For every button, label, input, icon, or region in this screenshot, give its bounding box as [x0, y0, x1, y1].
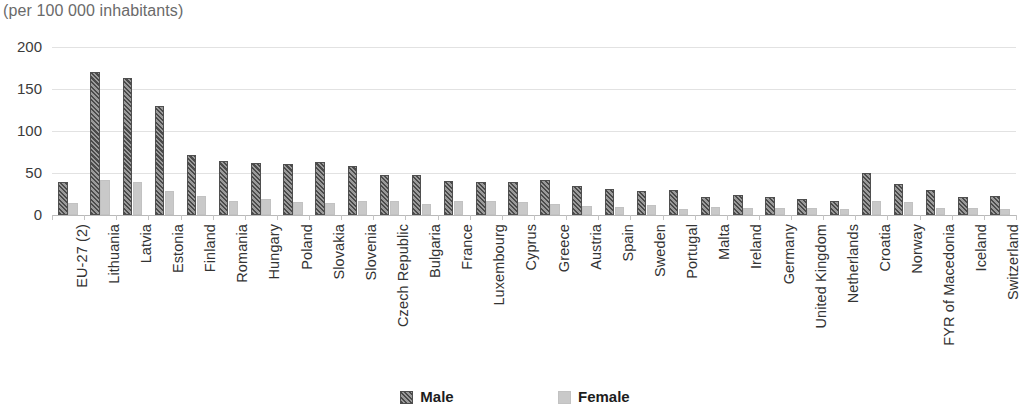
bar-group	[309, 47, 341, 215]
bar-female	[904, 202, 914, 215]
bar-female	[936, 208, 946, 215]
x-axis-tick	[277, 215, 278, 220]
bar-group	[470, 47, 502, 215]
bar-group	[695, 47, 727, 215]
bar-male	[605, 189, 615, 215]
bar-group	[245, 47, 277, 215]
bar-female	[422, 204, 432, 215]
bar-group	[663, 47, 695, 215]
x-axis-tick	[213, 215, 214, 220]
x-axis-label-text: Greece	[556, 224, 572, 272]
bar-female	[133, 182, 143, 215]
x-axis-tick	[341, 215, 342, 220]
bar-group	[148, 47, 180, 215]
x-axis-label: Sweden	[652, 224, 668, 277]
bar-male	[412, 175, 422, 215]
bar-male	[123, 78, 133, 215]
bar-male	[476, 182, 486, 215]
bar-female	[840, 209, 850, 215]
x-axis-label: Iceland	[973, 224, 989, 271]
x-axis-tick	[405, 215, 406, 220]
x-axis-tick	[695, 215, 696, 220]
x-axis-label-text: Switzerland	[1005, 224, 1021, 300]
x-axis-label-text: FYR of Macedonia	[941, 224, 957, 346]
bar-female	[582, 206, 592, 215]
bar-group	[373, 47, 405, 215]
x-axis-label: Netherlands	[845, 224, 861, 303]
bar-group	[791, 47, 823, 215]
x-axis-label: Switzerland	[1005, 224, 1021, 300]
bar-group	[341, 47, 373, 215]
x-axis-tick	[791, 215, 792, 220]
x-axis-tick	[438, 215, 439, 220]
bar-group	[823, 47, 855, 215]
x-axis-tick	[984, 215, 985, 220]
x-axis-tick	[1016, 215, 1017, 220]
x-axis-label-text: Finland	[202, 224, 218, 272]
bar-female	[358, 201, 368, 215]
chart-legend: Male Female	[0, 386, 1030, 405]
bar-male	[508, 182, 518, 215]
x-axis-label-text: Netherlands	[845, 224, 861, 303]
bar-male	[187, 155, 197, 215]
bar-female	[390, 201, 400, 215]
x-axis-label-text: France	[459, 224, 475, 270]
bar-male	[380, 175, 390, 215]
x-axis-label-text: Romania	[234, 224, 250, 283]
x-axis-label: Norway	[909, 224, 925, 274]
x-axis-label-text: Portugal	[684, 224, 700, 279]
bar-group	[84, 47, 116, 215]
legend-swatch-male-icon	[400, 391, 413, 404]
y-axis-tick-label: 100	[0, 122, 42, 139]
x-axis-label: Portugal	[684, 224, 700, 279]
y-axis-tick-label: 0	[0, 206, 42, 223]
bar-group	[405, 47, 437, 215]
bar-female	[743, 208, 753, 215]
x-axis-label-text: Lithuania	[106, 224, 122, 284]
x-axis-label: Latvia	[138, 224, 154, 263]
bar-group	[534, 47, 566, 215]
x-axis-tick	[116, 215, 117, 220]
x-axis-label-text: Cyprus	[523, 224, 539, 271]
bars-container	[52, 47, 1016, 215]
bar-female	[968, 208, 978, 215]
bar-group	[727, 47, 759, 215]
x-axis-label-text: Poland	[299, 224, 315, 270]
x-axis-tick	[920, 215, 921, 220]
x-axis-label-text: Slovenia	[363, 224, 379, 280]
x-axis-tick	[373, 215, 374, 220]
bar-group	[855, 47, 887, 215]
bar-male	[348, 166, 358, 215]
bar-female	[518, 202, 528, 215]
x-axis-label: United Kingdom	[813, 224, 829, 329]
x-axis-tick	[759, 215, 760, 220]
x-axis-tick	[309, 215, 310, 220]
x-axis-label-text: Iceland	[973, 224, 989, 271]
x-axis-label-text: Latvia	[138, 224, 154, 263]
bar-female	[711, 207, 721, 215]
x-axis-tick	[84, 215, 85, 220]
x-axis-label: Lithuania	[106, 224, 122, 284]
bar-male	[283, 164, 293, 215]
bar-female	[197, 196, 207, 215]
x-axis-tick	[470, 215, 471, 220]
x-axis-tick	[823, 215, 824, 220]
x-axis-label: Malta	[716, 224, 732, 260]
bar-male	[637, 191, 647, 215]
y-axis-tick-label: 200	[0, 38, 42, 55]
bar-group	[952, 47, 984, 215]
bar-female	[872, 201, 882, 215]
x-axis-label-text: Estonia	[170, 224, 186, 273]
bar-male	[701, 197, 711, 215]
bar-female	[229, 201, 239, 215]
x-axis-label-text: Croatia	[877, 224, 893, 271]
x-axis-label: Cyprus	[523, 224, 539, 271]
bar-male	[251, 163, 261, 215]
bar-male	[669, 190, 679, 215]
x-axis-label: Estonia	[170, 224, 186, 273]
bar-group	[277, 47, 309, 215]
bar-group	[887, 47, 919, 215]
x-axis-tick	[52, 215, 53, 220]
legend-label-female: Female	[578, 388, 630, 405]
bar-male	[894, 184, 904, 215]
